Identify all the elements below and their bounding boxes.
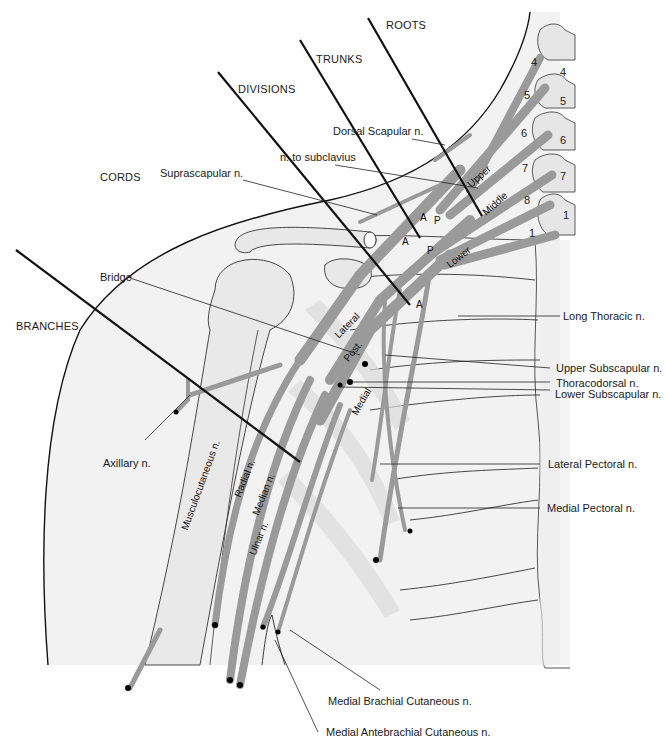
label-upper-subscapular: Upper Subscapular n. (556, 363, 662, 374)
division-label-anterior-2: A (402, 237, 409, 247)
label-axillary: Axillary n. (103, 458, 151, 469)
division-label-anterior-3: A (416, 300, 423, 310)
label-lower-subscapular: Lower Subscapular n. (555, 389, 661, 400)
vertebra-number-7: 7 (560, 171, 566, 182)
vertebra-number-5: 5 (560, 96, 566, 107)
vertebra-number-1: 1 (563, 210, 569, 221)
vertebra-number-6: 6 (560, 135, 566, 146)
section-label-branches: BRANCHES (16, 321, 79, 332)
root-number-8: 8 (524, 195, 530, 206)
label-bridge: Bridge (100, 272, 132, 283)
vertebra-number-4: 4 (560, 67, 566, 78)
label-medial-antebrachial-cutaneous: Medial Antebrachial Cutaneous n. (326, 727, 491, 738)
division-label-posterior-2: P (427, 246, 434, 256)
section-label-trunks: TRUNKS (316, 54, 362, 65)
label-suprascapular: Suprascapular n. (160, 168, 243, 179)
label-medial-brachial-cutaneous: Medial Brachial Cutaneous n. (328, 696, 472, 707)
shoulder-silhouette (44, 12, 560, 665)
label-long-thoracic: Long Thoracic n. (563, 311, 645, 322)
section-label-cords: CORDS (100, 172, 141, 183)
root-number-7: 7 (522, 163, 528, 174)
label-subclavius: n. to subclavius (280, 152, 356, 163)
root-number-5: 5 (524, 90, 530, 101)
label-lateral-pectoral: Lateral Pectoral n. (548, 459, 637, 470)
label-medial-pectoral: Medial Pectoral n. (547, 503, 635, 514)
root-number-1: 1 (529, 228, 535, 239)
anatomy-illustration (0, 0, 667, 750)
root-number-6: 6 (521, 128, 527, 139)
section-label-roots: ROOTS (386, 20, 426, 31)
label-dorsal-scapular: Dorsal Scapular n. (333, 126, 424, 137)
root-number-4: 4 (531, 57, 537, 68)
section-label-divisions: DIVISIONS (238, 84, 295, 95)
division-label-anterior-1: A (420, 213, 427, 223)
brachial-plexus-diagram: ROOTS TRUNKS DIVISIONS CORDS BRANCHES Do… (0, 0, 667, 750)
division-label-posterior-1: P (434, 216, 441, 226)
